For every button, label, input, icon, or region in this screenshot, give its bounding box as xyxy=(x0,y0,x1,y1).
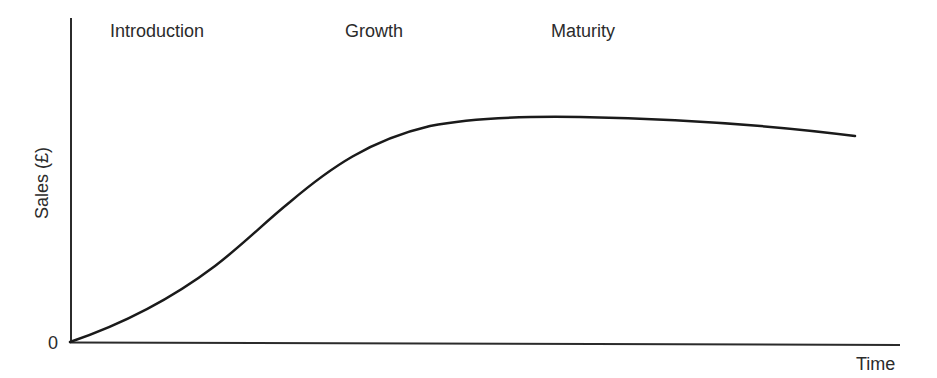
x-axis-label: Time xyxy=(856,353,895,375)
origin-label: 0 xyxy=(48,332,58,354)
stage-label-growth: Growth xyxy=(345,20,403,42)
chart-canvas xyxy=(0,0,937,378)
stage-label-introduction: Introduction xyxy=(110,20,204,42)
sales-curve xyxy=(70,117,855,342)
x-axis xyxy=(70,343,900,346)
product-life-cycle-chart: Introduction Growth Maturity Sales (£) T… xyxy=(0,0,937,378)
y-axis-label: Sales (£) xyxy=(31,147,53,219)
stage-label-maturity: Maturity xyxy=(551,20,615,42)
